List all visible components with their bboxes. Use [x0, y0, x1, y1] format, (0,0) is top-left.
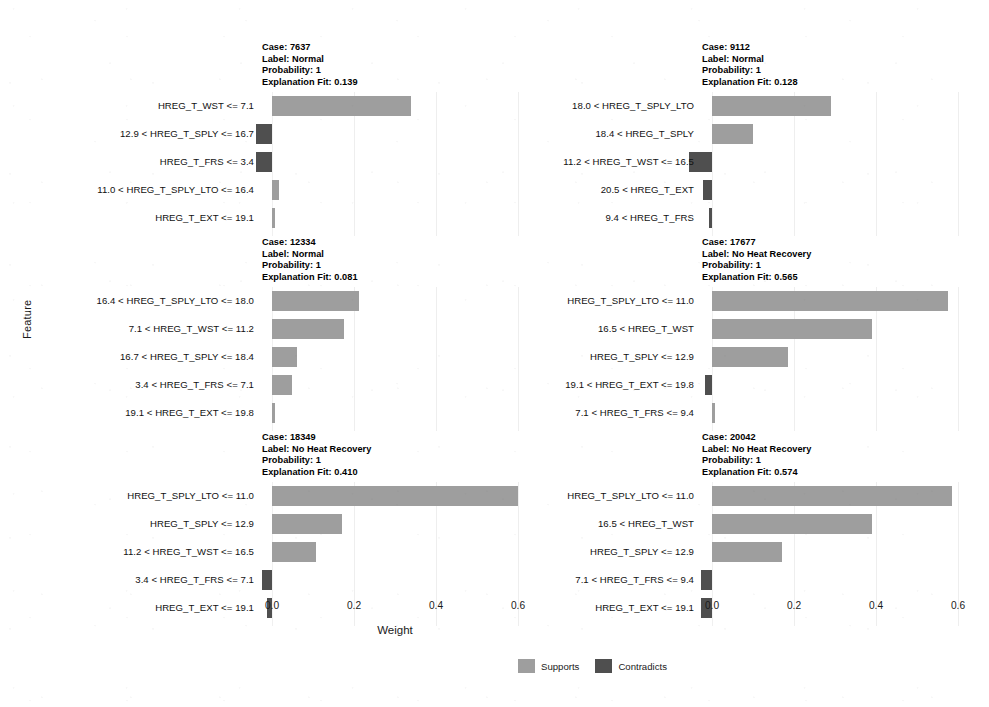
y-tick-label: HREG_T_SPLY <= 12.9: [22, 518, 254, 529]
bar: [262, 570, 272, 590]
panel-header-explanation-fit: Explanation Fit: 0.565: [702, 272, 811, 284]
x-tick-label: 0.4: [856, 600, 896, 611]
panel-header-case-label: Case: 18349: [262, 432, 371, 444]
bar: [272, 403, 275, 423]
panel-header-case-label: Case: 7637: [262, 42, 358, 54]
y-tick-label: 7.1 < HREG_T_FRS <= 9.4: [462, 574, 694, 585]
panel-header-explanation-fit: Explanation Fit: 0.128: [702, 77, 798, 89]
panel-header-class-label: Label: No Heat Recovery: [262, 444, 371, 456]
x-tick-label: 0.0: [252, 600, 292, 611]
gridline: [876, 92, 877, 236]
panel-header-explanation-fit: Explanation Fit: 0.574: [702, 467, 811, 479]
y-tick-label: 11.0 < HREG_T_SPLY_LTO <= 16.4: [22, 184, 254, 195]
panel-header-case-label: Case: 9112: [702, 42, 798, 54]
bar: [712, 291, 948, 311]
panel-header-class-label: Label: Normal: [262, 54, 358, 66]
y-tick-label: HREG_T_EXT <= 19.1: [22, 212, 254, 223]
y-tick-label: 18.0 < HREG_T_SPLY_LTO: [462, 100, 694, 111]
y-tick-label: 11.2 < HREG_T_WST <= 16.5: [22, 546, 254, 557]
y-tick-label: 3.4 < HREG_T_FRS <= 7.1: [22, 574, 254, 585]
y-tick-label: HREG_T_FRS <= 3.4: [22, 156, 254, 167]
bar: [272, 514, 342, 534]
y-tick-label: HREG_T_WST <= 7.1: [22, 100, 254, 111]
bar: [712, 124, 753, 144]
legend-label-supports: Supports: [541, 661, 579, 672]
panel-header-probability: Probability: 1: [262, 65, 358, 77]
y-tick-label: HREG_T_SPLY_LTO <= 11.0: [22, 490, 254, 501]
panel-header-probability: Probability: 1: [262, 260, 358, 272]
bar: [272, 208, 275, 228]
y-tick-label: 20.5 < HREG_T_EXT: [462, 184, 694, 195]
panel-header-probability: Probability: 1: [262, 455, 371, 467]
y-tick-label: 19.1 < HREG_T_EXT <= 19.8: [462, 379, 694, 390]
bar: [705, 375, 712, 395]
y-tick-label: HREG_T_SPLY_LTO <= 11.0: [462, 490, 694, 501]
bar: [712, 347, 788, 367]
panel-header-explanation-fit: Explanation Fit: 0.081: [262, 272, 358, 284]
panel-header-explanation-fit: Explanation Fit: 0.139: [262, 77, 358, 89]
y-tick-label: 9.4 < HREG_T_FRS: [462, 212, 694, 223]
legend: Supports Contradicts: [518, 657, 677, 675]
y-tick-label: HREG_T_SPLY_LTO <= 11.0: [462, 295, 694, 306]
x-tick-label: 0.0: [692, 600, 732, 611]
legend-label-contradicts: Contradicts: [618, 661, 667, 672]
panel-header: Case: 20042Label: No Heat RecoveryProbab…: [702, 432, 811, 478]
bar: [272, 375, 292, 395]
x-tick-label: 0.6: [938, 600, 978, 611]
y-tick-label: 16.5 < HREG_T_WST: [462, 323, 694, 334]
bar: [256, 124, 272, 144]
lime-explanation-figure: Feature Case: 7637Label: NormalProbabili…: [0, 0, 989, 707]
panel-header-probability: Probability: 1: [702, 65, 798, 77]
bar: [712, 319, 872, 339]
bar: [712, 486, 952, 506]
y-tick-label: 12.9 < HREG_T_SPLY <= 16.7: [22, 128, 254, 139]
panel-header-class-label: Label: No Heat Recovery: [702, 249, 811, 261]
bar: [712, 96, 831, 116]
panel-header: Case: 9112Label: NormalProbability: 1Exp…: [702, 42, 798, 88]
y-tick-label: HREG_T_EXT <= 19.1: [22, 602, 254, 613]
panel-header: Case: 7637Label: NormalProbability: 1Exp…: [262, 42, 358, 88]
panel-header-case-label: Case: 20042: [702, 432, 811, 444]
panel-header-probability: Probability: 1: [702, 260, 811, 272]
panel-header-class-label: Label: Normal: [262, 249, 358, 261]
x-tick-label: 0.2: [774, 600, 814, 611]
x-tick-label: 0.2: [334, 600, 374, 611]
bar: [703, 180, 712, 200]
bar: [272, 291, 359, 311]
y-tick-label: 16.4 < HREG_T_SPLY_LTO <= 18.0: [22, 295, 254, 306]
y-tick-label: 18.4 < HREG_T_SPLY: [462, 128, 694, 139]
panel-header-class-label: Label: Normal: [702, 54, 798, 66]
bar: [709, 208, 712, 228]
y-tick-label: 11.2 < HREG_T_WST <= 16.5: [462, 156, 694, 167]
y-tick-label: 16.7 < HREG_T_SPLY <= 18.4: [22, 351, 254, 362]
bar: [272, 96, 411, 116]
y-tick-label: HREG_T_SPLY <= 12.9: [462, 351, 694, 362]
panel-header: Case: 17677Label: No Heat RecoveryProbab…: [702, 237, 811, 283]
legend-swatch-contradicts: [595, 659, 612, 673]
y-tick-label: 16.5 < HREG_T_WST: [462, 518, 694, 529]
y-tick-label: 7.1 < HREG_T_WST <= 11.2: [22, 323, 254, 334]
gridline: [958, 287, 959, 431]
gridline: [436, 287, 437, 431]
panel-header-class-label: Label: No Heat Recovery: [702, 444, 811, 456]
x-tick-label: 0.4: [416, 600, 456, 611]
gridline: [436, 92, 437, 236]
panel-header-case-label: Case: 17677: [702, 237, 811, 249]
y-tick-label: 19.1 < HREG_T_EXT <= 19.8: [22, 407, 254, 418]
bar: [256, 152, 272, 172]
gridline: [958, 92, 959, 236]
x-axis-label-left: Weight: [355, 624, 435, 636]
bar: [712, 514, 872, 534]
bar: [701, 570, 712, 590]
bar: [712, 403, 715, 423]
y-tick-label: HREG_T_EXT <= 19.1: [462, 602, 694, 613]
legend-swatch-supports: [518, 659, 535, 673]
panel-header: Case: 12334Label: NormalProbability: 1Ex…: [262, 237, 358, 283]
bar: [272, 180, 279, 200]
bar: [712, 542, 782, 562]
y-tick-label: 3.4 < HREG_T_FRS <= 7.1: [22, 379, 254, 390]
panel-header-case-label: Case: 12334: [262, 237, 358, 249]
bar: [272, 542, 316, 562]
panel-header-probability: Probability: 1: [702, 455, 811, 467]
y-tick-label: 7.1 < HREG_T_FRS <= 9.4: [462, 407, 694, 418]
